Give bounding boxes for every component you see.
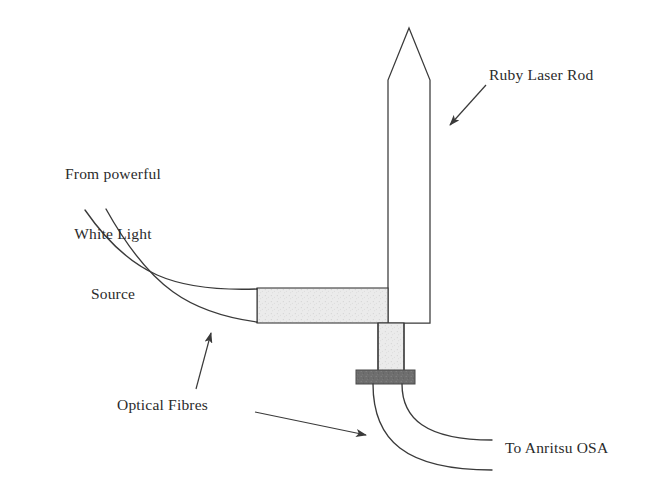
label-ruby-laser-rod: Ruby Laser Rod bbox=[489, 65, 593, 85]
output-fibre-upper bbox=[402, 384, 492, 440]
label-optical-fibres: Optical Fibres bbox=[117, 395, 208, 415]
input-fibre-ferrule bbox=[257, 288, 388, 323]
output-fibres-leader-arrow bbox=[255, 412, 366, 435]
laser-rod-group bbox=[388, 28, 430, 323]
output-fibre-lower bbox=[373, 384, 492, 470]
input-fibres-leader-arrow bbox=[196, 333, 211, 389]
label-source-line-3: Source bbox=[28, 284, 198, 304]
label-source-line-2: White Light bbox=[28, 224, 198, 244]
label-white-light-source: From powerful White Light Source bbox=[28, 124, 198, 344]
rod-leader-arrow bbox=[450, 85, 486, 125]
diagram-canvas: From powerful White Light Source Ruby La… bbox=[0, 0, 661, 501]
output-fibre-stub bbox=[378, 323, 404, 371]
output-fibre-stub-group bbox=[356, 323, 415, 384]
fibre-clamp-block bbox=[356, 370, 415, 384]
label-to-anritsu-osa: To Anritsu OSA bbox=[505, 438, 608, 458]
output-fibres-group bbox=[373, 384, 492, 470]
laser-rod-body bbox=[388, 28, 430, 323]
label-source-line-1: From powerful bbox=[28, 164, 198, 184]
